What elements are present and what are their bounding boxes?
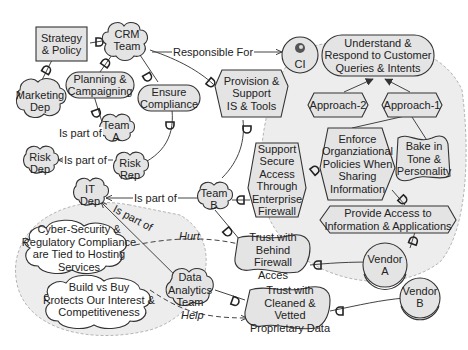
approach-2-label: Approach-2: [308, 93, 368, 117]
build-vs-buy-label: Build vs Buy Protects Our Interest & Com…: [38, 280, 160, 320]
trust-cleaned-label: Trust with Cleaned & Vetted Proprietary …: [248, 288, 332, 330]
ci-logo-icon: [295, 43, 305, 53]
responsible-for-label: Responsible For: [172, 46, 254, 58]
approach-1-label: Approach-1: [382, 93, 442, 117]
risk-rep-label: Risk Rep: [112, 154, 148, 184]
ci-label: CI: [282, 56, 318, 72]
team-b-label: Team B: [196, 184, 232, 214]
vendor-b-label: Vendor B: [400, 282, 440, 312]
cyber-security-label: Cyber-Security & Regulatory Compliance a…: [20, 222, 138, 274]
risk-dep-label: Risk Dep: [22, 148, 58, 178]
is-part-of-label-1: Is part of: [58, 127, 103, 139]
is-part-of-label-2: Is part of: [63, 154, 108, 166]
strategy-policy-label: Strategy & Policy: [36, 27, 87, 61]
help-label: Help: [180, 309, 205, 321]
vendor-a-label: Vendor A: [363, 250, 407, 280]
understand-respond-label: Understand & Respond to Customer Queries…: [322, 35, 434, 76]
data-analytics-label: Data Analytics Team: [166, 270, 214, 310]
provide-access-label: Provide Access to Information & Applicat…: [320, 206, 456, 233]
marketing-dep-label: Marketing Dep: [14, 84, 66, 118]
is-part-of-label-3: Is part of: [133, 192, 178, 204]
team-a-label: Team A: [98, 116, 134, 146]
it-dep-label: IT Dep: [72, 180, 108, 210]
crm-team-label: CRM Team: [104, 25, 150, 55]
hurt-label: Hurt: [178, 230, 201, 242]
support-secure-access-label: Support Secure Access Through Enterprise…: [248, 143, 306, 217]
planning-campaigning-label: Planning & Campaigning: [66, 72, 134, 98]
trust-firewall-label: Trust with Behind Firewall Acces: [236, 236, 310, 276]
provision-support-label: Provision & Support IS & Tools: [215, 70, 288, 117]
bake-in-tone-label: Bake in Tone & Personality: [398, 136, 450, 182]
enforce-policies-label: Enforce Organziational Policies When Sha…: [320, 128, 395, 200]
ensure-compliance-label: Ensure Compliance: [138, 85, 200, 111]
